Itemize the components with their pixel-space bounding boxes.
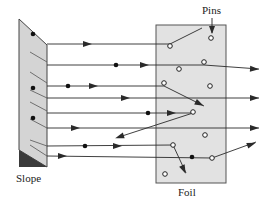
ball-on-slope: [31, 32, 36, 37]
foil-label: Foil: [178, 186, 196, 198]
ball: [146, 111, 151, 116]
arrow-icon: [113, 143, 122, 149]
arrow-icon: [89, 83, 98, 89]
pin: [171, 143, 176, 148]
pin: [203, 133, 208, 138]
pin: [210, 156, 215, 161]
pins-label: Pins: [202, 4, 221, 16]
pin: [163, 172, 168, 177]
ball: [66, 84, 71, 89]
arrow-icon: [121, 95, 130, 101]
ball: [190, 155, 195, 160]
ball: [83, 144, 88, 149]
arrow-icon: [140, 62, 149, 68]
slope: [19, 19, 47, 167]
ball-on-slope: [31, 86, 36, 91]
arrow-icon: [250, 125, 259, 131]
arrow-icon: [83, 41, 92, 47]
pin: [191, 110, 196, 115]
ball: [114, 63, 119, 68]
ball-on-slope: [31, 116, 36, 121]
trajectory: [47, 65, 259, 69]
pin: [162, 81, 167, 86]
arrow-icon: [58, 153, 67, 159]
arrow-icon: [246, 140, 257, 149]
arrow-icon: [250, 66, 259, 73]
slope-label: Slope: [16, 172, 41, 184]
arrow-icon: [114, 133, 124, 141]
arrow-icon: [71, 125, 80, 131]
pin: [209, 36, 214, 41]
pin: [202, 60, 207, 65]
foil-rect: [156, 25, 226, 183]
arrow-icon: [250, 95, 259, 101]
pin: [177, 67, 182, 72]
pin: [168, 44, 173, 49]
ball-trajectories: [47, 28, 259, 173]
pin: [208, 84, 213, 89]
